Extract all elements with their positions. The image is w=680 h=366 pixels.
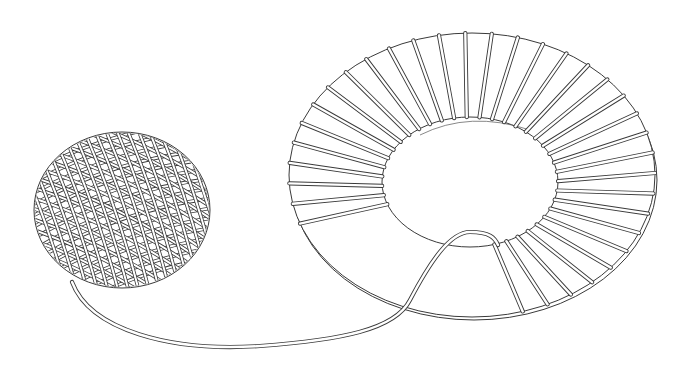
illustration-canvas: Line drawing of a ball of string connect…: [0, 0, 680, 366]
ball-of-string: [0, 78, 259, 342]
toroid: [289, 33, 657, 320]
